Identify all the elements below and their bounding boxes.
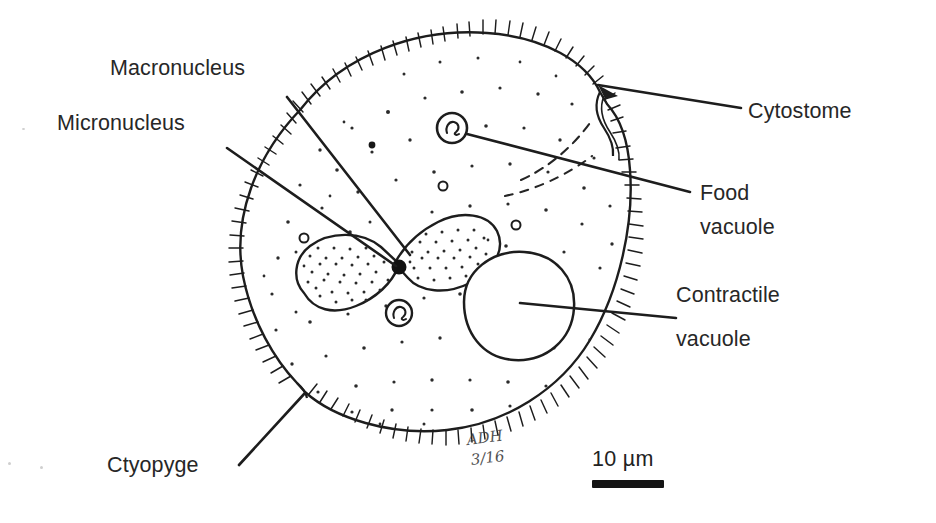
micronucleus: [392, 260, 407, 275]
label-micronucleus: Micronucleus: [57, 110, 185, 136]
label-food-vacuole-line1: Food: [700, 180, 749, 206]
figure-canvas: Macronucleus Micronucleus Cytostome Food…: [0, 0, 936, 523]
label-contractile-vacuole-line2: vacuole: [676, 326, 751, 352]
cell-body-group: [229, 20, 643, 445]
scan-speck: [22, 128, 25, 130]
label-food-vacuole-line2: vacuole: [700, 214, 775, 240]
scan-speck: [8, 462, 11, 465]
label-contractile-vacuole-line1: Contractile: [676, 282, 780, 308]
secondary-food-vacuole: [386, 300, 412, 326]
food-vacuole: [437, 113, 467, 143]
label-cytostome: Cytostome: [748, 98, 852, 124]
scale-bar-label: 10 µm: [592, 447, 654, 472]
dark-granule: [369, 142, 376, 149]
scale-bar: [592, 480, 664, 488]
label-cytopyge: Ctyopyge: [107, 452, 199, 478]
leader-cytopyge: [239, 393, 305, 465]
scan-speck: [40, 466, 43, 469]
label-macronucleus: Macronucleus: [110, 55, 245, 81]
